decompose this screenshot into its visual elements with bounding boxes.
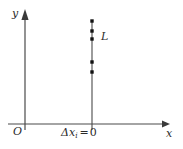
delta-x-annotation: Δxi=0	[61, 127, 97, 140]
y-axis-arrowhead	[21, 9, 28, 20]
y-axis-label: y	[12, 8, 18, 19]
delta-symbol: Δ	[61, 126, 69, 139]
annotation-value: 0	[90, 126, 97, 139]
segment-label-L: L	[101, 31, 108, 42]
point-marker	[90, 19, 93, 22]
point-marker	[90, 60, 93, 63]
origin-label: O	[13, 126, 22, 137]
point-marker	[90, 29, 93, 32]
point-marker	[90, 70, 93, 73]
equals-sign: =	[78, 126, 90, 139]
figure-canvas: y x O L Δxi=0	[0, 0, 183, 149]
x-axis-label: x	[166, 128, 172, 139]
point-marker	[90, 37, 93, 40]
